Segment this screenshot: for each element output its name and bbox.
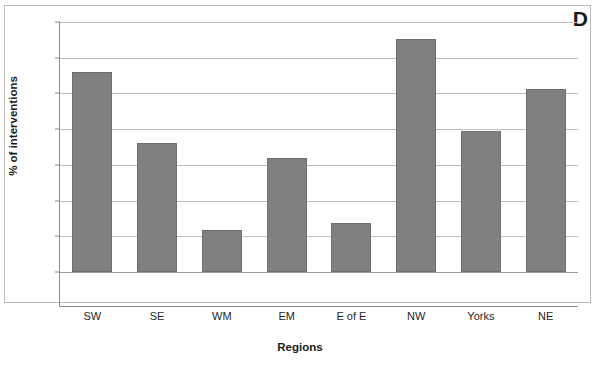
bar-series: [60, 22, 578, 272]
bar: [331, 223, 371, 272]
bar: [202, 230, 242, 272]
gridline: [60, 272, 578, 273]
x-tick-label: WM: [212, 310, 232, 322]
y-axis-title: % of interventions: [7, 51, 19, 201]
x-axis-tick-labels: SWSEWMEME of ENWYorksNE: [60, 310, 578, 330]
x-tick-label: SE: [150, 310, 165, 322]
x-axis-line: [59, 306, 578, 307]
x-tick-label: SW: [84, 310, 102, 322]
bar-chart-figure: D 0551520253035 SWSEWMEME of ENWYorksNE …: [0, 0, 600, 368]
bar: [267, 158, 307, 272]
x-tick-label: EM: [278, 310, 295, 322]
x-tick-label: Yorks: [467, 310, 494, 322]
x-tick-label: NE: [538, 310, 553, 322]
bar: [526, 89, 566, 272]
bar: [137, 143, 177, 272]
bar: [72, 72, 112, 272]
plot-area: 0551520253035: [60, 22, 578, 272]
x-tick-label: NW: [407, 310, 425, 322]
bar: [461, 131, 501, 272]
bar: [396, 39, 436, 272]
x-tick-label: E of E: [336, 310, 366, 322]
x-axis-title: Regions: [0, 341, 600, 353]
